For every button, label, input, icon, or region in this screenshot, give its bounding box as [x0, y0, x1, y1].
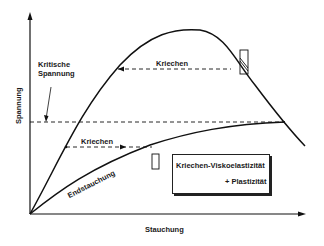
pointer-arrowhead-icon: [44, 115, 49, 122]
legend-line1: Kriechen-Viskoelastizität: [176, 161, 265, 170]
critical-stress-label-line1: Kritische: [38, 61, 70, 69]
lower-creep-arrow-icon: [120, 145, 126, 150]
critical-stress-pointer: [46, 87, 51, 119]
y-axis-arrow-icon: [28, 12, 33, 20]
legend-box: Kriechen-Viskoelastizität + Plastizität: [172, 154, 270, 194]
lower-creep-label: Kriechen: [81, 138, 113, 146]
critical-stress-label-line2: Spannung: [38, 70, 75, 78]
x-axis-arrow-icon: [298, 212, 306, 217]
stress-strain-diagram: [0, 0, 324, 246]
legend-line2: + Plastizität: [225, 177, 266, 186]
upper-creep-label: Kriechen: [156, 60, 188, 68]
x-axis-label: Stauchung: [145, 226, 184, 234]
compressed-specimen-icon: [152, 154, 159, 169]
y-axis-label: Spannung: [14, 87, 23, 124]
